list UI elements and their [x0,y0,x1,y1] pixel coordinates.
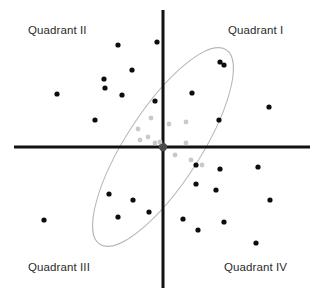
data-point [167,122,172,127]
quadrant-3-label: Quadrant III [28,262,90,274]
data-point [189,90,194,95]
data-point [216,117,221,122]
data-point [146,135,151,140]
quadrant-4-label: Quadrant IV [224,262,287,274]
data-point [92,117,97,122]
data-point [195,227,200,232]
data-point [221,219,226,224]
data-point [136,127,141,132]
data-point [266,104,271,109]
data-point [130,197,135,202]
data-point [152,98,157,103]
data-point [173,153,178,158]
data-point [193,162,198,167]
data-point [180,216,185,221]
data-point [102,85,107,90]
data-point [255,164,260,169]
data-point [253,240,258,245]
data-point [106,191,111,196]
data-point [101,76,106,81]
data-point [193,181,198,186]
data-point [54,91,59,96]
data-point [115,214,120,219]
quadrant-2-label: Quadrant II [28,25,87,37]
data-point [158,140,163,145]
data-point [200,163,205,168]
data-point [189,158,194,163]
quadrant-scatter-figure: Quadrant I Quadrant II Quadrant III Quad… [0,0,322,295]
scatter-plot-svg [0,0,322,295]
data-point [184,141,189,146]
data-point [217,59,222,64]
data-point [146,209,151,214]
data-point [138,138,143,143]
data-point [213,187,218,192]
data-point [149,116,154,121]
data-point [129,67,134,72]
data-point [154,39,159,44]
data-point [41,217,46,222]
axes-group [14,10,310,288]
data-point [217,166,222,171]
quadrant-1-label: Quadrant I [228,25,283,37]
inner-cluster-points-group [136,116,205,168]
data-point [184,120,189,125]
data-point [115,42,120,47]
data-point [153,141,158,146]
data-point [267,197,272,202]
data-point [119,92,124,97]
